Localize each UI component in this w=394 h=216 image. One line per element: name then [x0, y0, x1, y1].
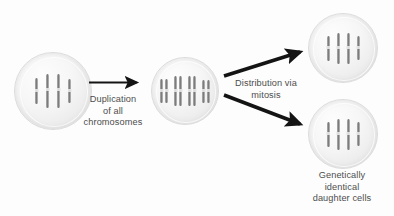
distribution-label: Distribution via mitosis	[230, 78, 302, 101]
sister-chromatid	[174, 76, 177, 106]
daughter-cell-top	[308, 13, 378, 83]
duplicated-chromosome	[160, 79, 168, 103]
chromatid	[68, 79, 71, 103]
daughter-cell-bottom	[308, 99, 378, 169]
duplicated-cell-chromosomes	[152, 58, 218, 124]
chromatid	[357, 36, 360, 60]
chromosome	[57, 74, 60, 108]
chromatid	[46, 74, 49, 108]
duplication-label: Duplication of all chromosomes	[79, 94, 147, 129]
chromosome	[327, 36, 330, 61]
chromatid	[35, 78, 38, 104]
chromosome	[357, 36, 360, 60]
sister-chromatid	[202, 80, 205, 103]
chromosome	[327, 122, 330, 147]
duplicated-chromosome	[202, 80, 210, 103]
chromosome	[35, 78, 38, 104]
chromatid	[57, 74, 60, 108]
chromatid	[327, 122, 330, 147]
sister-chromatid	[193, 76, 196, 106]
daughter-cells-label: Genetically identical daughter cells	[293, 170, 391, 205]
duplicated-cell	[151, 57, 219, 125]
sister-chromatid	[160, 79, 163, 103]
chromatid	[347, 119, 350, 150]
sister-chromatid	[207, 80, 210, 103]
daughter-cell-bottom-chromosomes	[309, 100, 377, 168]
chromosome	[357, 122, 360, 146]
daughter-cell-top-chromosomes	[309, 14, 377, 82]
chromatid	[347, 33, 350, 64]
chromosome	[337, 33, 340, 64]
chromosome	[347, 33, 350, 64]
chromosome	[337, 119, 340, 150]
chromatid	[337, 119, 340, 150]
chromatid	[327, 36, 330, 61]
duplicated-chromosome	[174, 76, 182, 106]
chromosome	[46, 74, 49, 108]
chromatid	[337, 33, 340, 64]
chromosome	[347, 119, 350, 150]
duplicated-chromosome	[188, 76, 196, 106]
chromatid	[357, 122, 360, 146]
sister-chromatid	[179, 76, 182, 106]
mitosis-diagram: Duplication of all chromosomes Distribut…	[0, 0, 394, 216]
arrow-mitosis-up	[224, 52, 300, 76]
sister-chromatid	[165, 79, 168, 103]
chromosome	[68, 79, 71, 103]
sister-chromatid	[188, 76, 191, 106]
